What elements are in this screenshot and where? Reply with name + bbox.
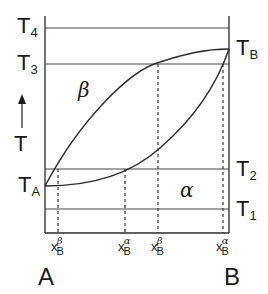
label-t3: T3 xyxy=(17,52,38,76)
label-t4: T4 xyxy=(17,15,38,39)
label-t1: T1 xyxy=(236,198,257,222)
phase-label-beta: β xyxy=(78,80,90,100)
component-a-label: A xyxy=(38,265,54,289)
composition-label-3: xBβ xyxy=(151,240,171,253)
label-t2: T2 xyxy=(236,158,257,182)
composition-label-2: xBα xyxy=(118,240,139,253)
label-tb: TB xyxy=(236,37,258,61)
up-arrow-head-icon xyxy=(18,94,26,104)
axis-label-t: T xyxy=(14,133,27,155)
label-ta: TA xyxy=(18,174,40,198)
liquidus-curve xyxy=(45,49,229,186)
composition-label-1: xBβ xyxy=(51,240,71,253)
phase-label-alpha: α xyxy=(180,180,194,200)
composition-label-4: xBα xyxy=(216,240,237,253)
component-b-label: B xyxy=(224,265,240,289)
solidus-curve xyxy=(45,49,229,186)
